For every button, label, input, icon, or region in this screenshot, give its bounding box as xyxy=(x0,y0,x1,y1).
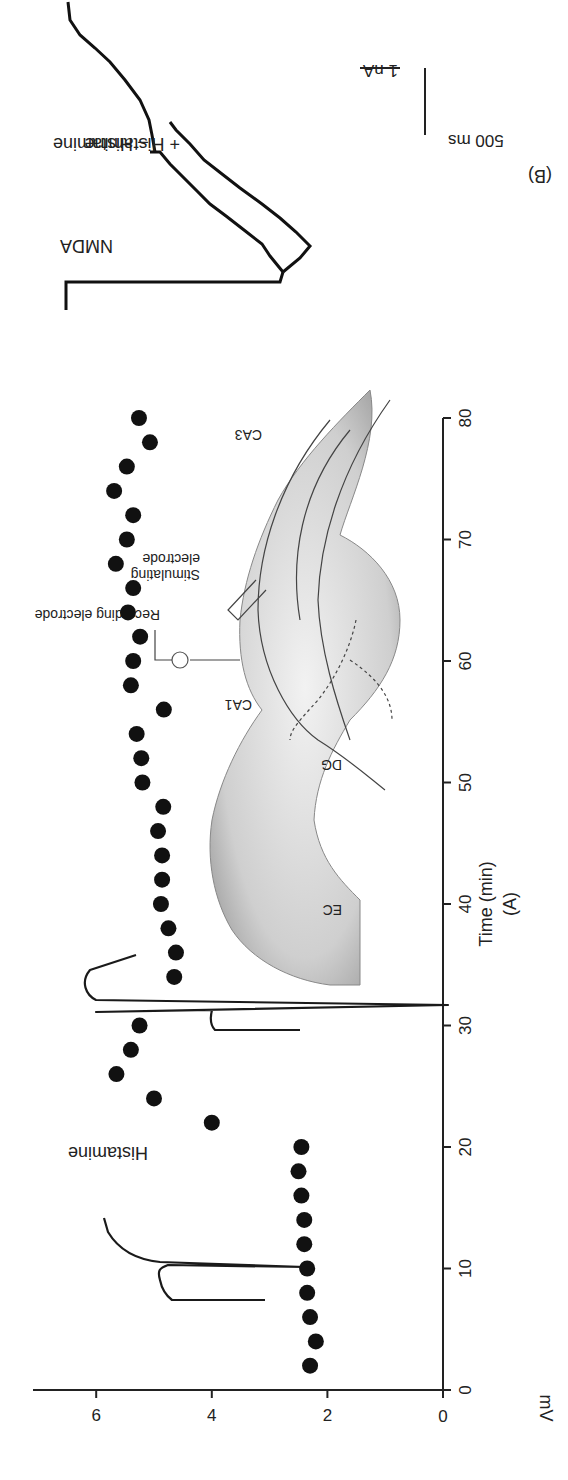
data-point xyxy=(308,1333,324,1349)
data-point xyxy=(166,969,182,985)
y-axis-title: mV xyxy=(536,1395,556,1422)
fepsp-trace-baseline xyxy=(104,1218,305,1300)
data-point xyxy=(302,1309,318,1325)
data-point xyxy=(302,1358,318,1374)
data-point xyxy=(125,653,141,669)
recording-electrode xyxy=(155,630,240,668)
panel-b: NMDA – Histamine + Histamine 1 nA 500 ms… xyxy=(53,2,552,310)
data-point xyxy=(296,1236,312,1252)
x-tick-label: 10 xyxy=(456,1259,475,1278)
stimulating-electrode-label-1: Stimulating xyxy=(131,567,200,583)
data-point xyxy=(119,532,135,548)
region-ca1-label: CA1 xyxy=(225,697,252,713)
data-point xyxy=(168,945,184,961)
data-point xyxy=(132,629,148,645)
y-tick-label: 0 xyxy=(438,1407,447,1426)
y-tick-label: 2 xyxy=(323,1407,332,1426)
data-point xyxy=(154,872,170,888)
x-tick-label: 80 xyxy=(456,409,475,428)
data-point xyxy=(154,847,170,863)
tissue-outline-shape xyxy=(210,390,400,985)
figure-canvas: Recording electrode Stimulating electrod… xyxy=(0,0,568,1480)
nmda-title: NMDA xyxy=(60,236,113,256)
data-point xyxy=(293,1139,309,1155)
nmda-decay-trace xyxy=(68,2,155,152)
data-point xyxy=(204,1115,220,1131)
data-point xyxy=(131,410,147,426)
data-point xyxy=(142,434,158,450)
y-tick-label: 4 xyxy=(207,1407,216,1426)
nmda-trace-plus-histamine xyxy=(170,122,310,272)
data-point xyxy=(108,556,124,572)
stimulating-electrode-label-2: electrode xyxy=(142,551,200,567)
histamine-annotation: Histamine xyxy=(68,1143,148,1163)
data-point xyxy=(146,1090,162,1106)
panel-b-label: (B) xyxy=(528,166,552,186)
data-point xyxy=(119,459,135,475)
x-tick-label: 30 xyxy=(456,1016,475,1035)
x-tick-label: 0 xyxy=(456,1385,475,1394)
hippocampus-inset: Recording electrode Stimulating electrod… xyxy=(34,390,400,985)
data-point xyxy=(132,1018,148,1034)
data-point xyxy=(123,677,139,693)
data-point xyxy=(125,580,141,596)
data-point xyxy=(299,1261,315,1277)
data-point xyxy=(106,483,122,499)
x-axis-title: Time (min) xyxy=(476,861,496,946)
x-tick-label: 70 xyxy=(456,530,475,549)
data-point xyxy=(134,775,150,791)
panel-a-label: (A) xyxy=(500,892,520,916)
data-point xyxy=(299,1285,315,1301)
x-ticks: 01020304050607080 xyxy=(443,409,475,1395)
panel-a: Recording electrode Stimulating electrod… xyxy=(33,390,556,1426)
data-point xyxy=(156,702,172,718)
nmda-baseline-trace xyxy=(66,272,283,310)
x-tick-label: 50 xyxy=(456,773,475,792)
x-tick-label: 40 xyxy=(456,895,475,914)
x-tick-label: 60 xyxy=(456,652,475,671)
region-dg-label: DG xyxy=(321,757,342,773)
data-point xyxy=(155,799,171,815)
data-point xyxy=(160,920,176,936)
recording-electrode-label: Recording electrode xyxy=(34,607,160,623)
data-point xyxy=(153,896,169,912)
legend-plus-histamine: + Histamine xyxy=(84,134,180,154)
y-ticks: 0246 xyxy=(91,1390,447,1426)
data-point xyxy=(108,1066,124,1082)
data-point xyxy=(133,750,149,766)
data-point xyxy=(293,1188,309,1204)
region-ec-label: EC xyxy=(323,902,342,918)
data-point xyxy=(296,1212,312,1228)
y-tick-label: 6 xyxy=(91,1407,100,1426)
data-point xyxy=(150,823,166,839)
figure: Recording electrode Stimulating electrod… xyxy=(0,0,568,1480)
data-point xyxy=(291,1163,307,1179)
data-point xyxy=(129,726,145,742)
region-ca3-label: CA3 xyxy=(235,427,262,443)
scale-time-label: 500 ms xyxy=(448,131,504,150)
data-point xyxy=(123,1042,139,1058)
x-tick-label: 20 xyxy=(456,1138,475,1157)
scale-current-label: 1 nA xyxy=(362,61,398,80)
data-point xyxy=(120,604,136,620)
data-point xyxy=(125,507,141,523)
